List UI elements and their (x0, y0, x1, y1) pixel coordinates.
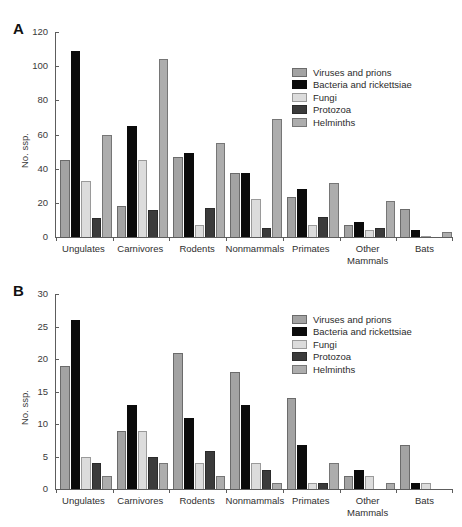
bar (81, 457, 91, 490)
legend-label: Bacteria and rickettsiae (313, 326, 412, 337)
legend-swatch-icon (292, 80, 307, 89)
bar (71, 320, 81, 489)
x-tick-label: Primates (282, 495, 339, 519)
legend-item: Helminths (292, 363, 412, 376)
bar (71, 51, 81, 237)
legend-label: Helminths (313, 364, 355, 375)
y-tick-label: 0 (43, 231, 48, 242)
y-tick-label: 15 (37, 386, 48, 397)
y-tick-label: 5 (43, 451, 48, 462)
bar (92, 218, 102, 237)
legend-swatch-icon (292, 118, 307, 127)
legend-label: Fungi (313, 92, 337, 103)
panel-b-letter: B (13, 282, 24, 299)
bar (216, 143, 226, 237)
bar-group (226, 33, 283, 237)
bar (102, 476, 112, 489)
bar-group (226, 295, 283, 489)
y-tick-label: 30 (37, 288, 48, 299)
bar (297, 189, 307, 237)
bar (262, 228, 272, 237)
x-tick-label-line: Ungulates (55, 243, 112, 255)
x-axis-b (55, 489, 453, 490)
y-tick-label: 60 (37, 129, 48, 140)
x-tick-label-line: Other (339, 243, 396, 255)
x-tick-label-line: Nonmammals (226, 495, 283, 507)
legend-swatch-icon (292, 352, 307, 361)
legend-swatch-icon (292, 365, 307, 374)
y-tick-label: 10 (37, 418, 48, 429)
x-tick-label: OtherMammals (339, 495, 396, 519)
x-tick-mark (283, 237, 284, 241)
x-tick-label: Ungulates (55, 495, 112, 519)
y-tick-label: 120 (32, 26, 48, 37)
y-tick-label: 20 (37, 353, 48, 364)
bar (241, 405, 251, 490)
bar-group (113, 33, 170, 237)
bar (184, 153, 194, 237)
bar (386, 483, 396, 490)
bar (365, 230, 375, 237)
legend-item: Viruses and prions (292, 313, 412, 326)
bar (60, 366, 70, 490)
bar (81, 181, 91, 237)
x-tick-mark (452, 237, 453, 241)
legend-label: Viruses and prions (313, 67, 392, 78)
bar (386, 201, 396, 237)
legend-item: Bacteria and rickettsiae (292, 326, 412, 339)
x-tick-label: Carnivores (112, 495, 169, 519)
bar (375, 228, 385, 237)
bar (184, 418, 194, 490)
x-tick-label: Nonmammals (226, 495, 283, 519)
bar (318, 483, 328, 490)
bar-group (113, 295, 170, 489)
bar (102, 135, 112, 238)
plot-area-a: No. ssp. 020406080100120 (55, 33, 453, 238)
bar (195, 225, 205, 237)
panel-a-letter: A (13, 20, 24, 37)
bar-group (169, 33, 226, 237)
bar (127, 126, 137, 237)
x-tick-mark (226, 489, 227, 493)
bar (138, 160, 148, 237)
bar (287, 398, 297, 489)
bar (117, 431, 127, 490)
bar (297, 445, 307, 489)
x-tick-label-line: Carnivores (112, 243, 169, 255)
x-tick-mark (113, 237, 114, 241)
legend-b: Viruses and prionsBacteria and rickettsi… (292, 313, 412, 376)
bar-group (169, 295, 226, 489)
bar (173, 353, 183, 490)
x-tick-mark (56, 237, 57, 241)
bar-group (340, 33, 397, 237)
x-tick-mark (169, 489, 170, 493)
bar (205, 208, 215, 237)
bar-group (283, 33, 340, 237)
bar-groups-a (56, 33, 453, 237)
legend-item: Protozoa (292, 351, 412, 364)
bar (272, 119, 282, 237)
x-tick-label-line: Bats (396, 243, 453, 255)
y-tick-label: 100 (32, 60, 48, 71)
panel-b: B No. ssp. 051015202530 UngulatesCarnivo… (0, 262, 462, 527)
bar (148, 210, 158, 237)
x-tick-labels-b: UngulatesCarnivoresRodentsNonmammalsPrim… (55, 495, 453, 519)
legend-swatch-icon (292, 340, 307, 349)
bar (308, 225, 318, 237)
x-tick-mark (226, 237, 227, 241)
y-tick-label: 80 (37, 94, 48, 105)
bar (354, 222, 364, 237)
bar (262, 470, 272, 490)
bar (138, 431, 148, 490)
bar (159, 463, 169, 489)
bar (318, 217, 328, 237)
x-axis-a (55, 237, 453, 238)
bar (230, 173, 240, 237)
bar (411, 230, 421, 237)
x-tick-mark (452, 489, 453, 493)
x-tick-label-line: Primates (282, 495, 339, 507)
bar (272, 483, 282, 490)
x-tick-mark (396, 237, 397, 241)
bar (251, 199, 261, 237)
legend-swatch-icon (292, 105, 307, 114)
